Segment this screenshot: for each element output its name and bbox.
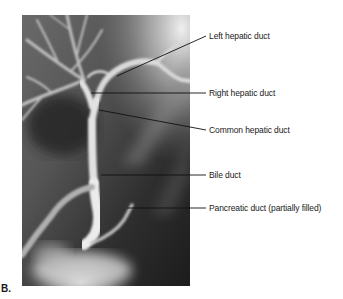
- label-left-hepatic-duct: Left hepatic duct: [209, 31, 270, 41]
- leader-lines: [0, 0, 343, 299]
- label-right-hepatic-duct: Right hepatic duct: [209, 88, 275, 98]
- panel-letter: B.: [1, 283, 11, 294]
- label-pancreatic-duct: Pancreatic duct (partially filled): [209, 203, 321, 213]
- leader-common-hepatic-duct: [99, 110, 206, 130]
- leader-left-hepatic-duct: [117, 36, 206, 76]
- anatomy-figure: Left hepatic duct Right hepatic duct Com…: [0, 0, 343, 299]
- label-common-hepatic-duct: Common hepatic duct: [209, 125, 290, 135]
- label-bile-duct: Bile duct: [209, 170, 241, 180]
